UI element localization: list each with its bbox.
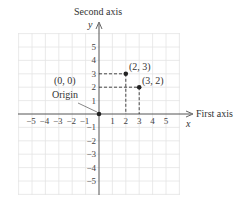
svg-text:3: 3 xyxy=(137,116,142,126)
svg-text:−3: −3 xyxy=(86,149,96,159)
point-3-2 xyxy=(137,85,142,90)
svg-text:−4: −4 xyxy=(40,116,50,126)
point-label-2-3: (2, 3) xyxy=(129,61,151,73)
svg-text:−1: −1 xyxy=(86,122,96,132)
svg-text:2: 2 xyxy=(124,116,129,126)
point-label-3-2: (3, 2) xyxy=(142,75,164,87)
x-tick-labels: −5 −4 −3 −2 −1 1 2 3 4 5 xyxy=(26,116,169,126)
coordinate-plane: Second axis y First axis x (0, 0) Origin… xyxy=(0,0,246,205)
y-axis-variable: y xyxy=(87,19,93,30)
projection-lines xyxy=(99,74,139,114)
origin-coords-label: (0, 0) xyxy=(54,75,76,87)
svg-text:4: 4 xyxy=(150,116,155,126)
svg-text:−4: −4 xyxy=(86,163,96,173)
x-axis-title: First axis xyxy=(196,108,233,119)
svg-text:1: 1 xyxy=(110,116,115,126)
svg-text:4: 4 xyxy=(92,55,97,65)
origin-label: Origin xyxy=(52,89,78,100)
svg-text:2: 2 xyxy=(92,82,97,92)
svg-text:5: 5 xyxy=(92,42,97,52)
svg-text:−3: −3 xyxy=(53,116,63,126)
svg-text:−5: −5 xyxy=(86,176,96,186)
svg-text:−2: −2 xyxy=(66,116,76,126)
svg-text:1: 1 xyxy=(92,96,97,106)
svg-text:−5: −5 xyxy=(26,116,36,126)
y-axis-title: Second axis xyxy=(74,6,122,17)
svg-text:−2: −2 xyxy=(86,136,96,146)
svg-text:5: 5 xyxy=(164,116,169,126)
point-2-3 xyxy=(124,72,129,77)
x-axis-variable: x xyxy=(185,118,191,129)
svg-text:3: 3 xyxy=(92,69,97,79)
point-origin xyxy=(97,112,102,117)
